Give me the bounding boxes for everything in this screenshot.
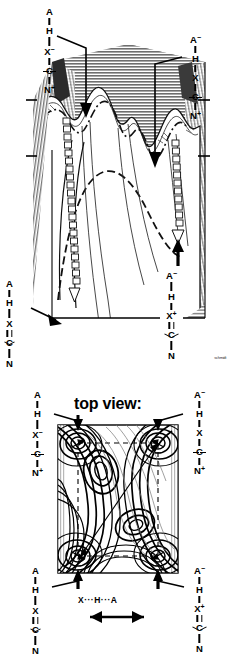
atom-charge: −	[201, 565, 205, 572]
atom-symbol: C	[196, 447, 203, 457]
atom-symbol: X	[196, 428, 202, 438]
atom-symbol: N	[194, 466, 201, 476]
atom-symbol: H	[46, 26, 53, 36]
atom-symbol: N	[190, 111, 197, 121]
species-label-bottom-left-contour: A H X C N	[32, 565, 39, 657]
atom-symbol: A	[194, 390, 201, 400]
leader-line-contour-br	[158, 581, 184, 587]
atom-symbol: C	[32, 625, 39, 635]
atom-symbol: H	[168, 292, 175, 302]
atom-symbol: X	[32, 606, 38, 616]
atom-symbol: A	[46, 7, 53, 17]
atom-symbol: N	[44, 85, 51, 95]
axis-double-arrow	[90, 611, 144, 623]
atom-charge: +	[173, 310, 177, 317]
atom-symbol: N	[32, 646, 39, 656]
atom-symbol: A	[166, 271, 173, 281]
leader-line-contour-bl	[52, 581, 78, 587]
axis-caption: X···H···A	[78, 595, 117, 605]
atom-charge: −	[51, 46, 55, 53]
atom-symbol: H	[192, 54, 199, 64]
atom-charge: −	[197, 34, 201, 41]
species-label-top-left-contour: A H X− C N+	[32, 389, 43, 479]
atom-symbol: X	[192, 73, 198, 83]
species-label-top-left-3d: A H X− C N+	[44, 6, 55, 96]
axis-dots-right: ···	[101, 595, 111, 605]
species-label-top-right-3d: A− H X C N+	[190, 34, 201, 122]
axis-a-symbol: A	[111, 595, 118, 605]
perspective-surface-panel: A H X− C N+ A− H X C N+ A H X C N A− H	[0, 0, 234, 375]
artist-signature: schmidt	[214, 355, 226, 360]
atom-charge: −	[39, 429, 43, 436]
atom-symbol: H	[6, 298, 13, 308]
atom-symbol: A	[190, 35, 197, 45]
atom-symbol: A	[194, 566, 201, 576]
atom-symbol: C	[46, 66, 53, 76]
atom-symbol: A	[6, 279, 13, 289]
species-label-inset-box-3d: A− H X+ C N	[160, 266, 183, 365]
atom-symbol: H	[32, 585, 39, 595]
atom-charge: −	[173, 270, 177, 277]
atom-symbol: H	[196, 585, 203, 595]
atom-charge: +	[201, 603, 205, 610]
atom-symbol: N	[196, 644, 203, 654]
atom-symbol: C	[34, 449, 41, 459]
species-label-top-right-contour: A− H X C N+	[194, 389, 205, 477]
atom-symbol: N	[6, 359, 13, 369]
atom-symbol: A	[32, 566, 39, 576]
species-label-bottom-right-contour: A− H X+ C N	[194, 565, 205, 655]
atom-charge: +	[197, 110, 201, 117]
atom-symbol: C	[6, 338, 13, 348]
species-label-bottom-left-3d: A H X C N	[6, 278, 13, 370]
atom-symbol: H	[34, 409, 41, 419]
atom-charge: −	[201, 389, 205, 396]
atom-symbol: N	[32, 468, 39, 478]
axis-h-symbol: H	[94, 595, 101, 605]
contour-map-panel: top view:	[0, 375, 234, 659]
atom-symbol: C	[192, 92, 199, 102]
atom-symbol: H	[196, 409, 203, 419]
atom-symbol: N	[168, 351, 175, 361]
atom-charge: +	[39, 467, 43, 474]
atom-charge: +	[51, 84, 55, 91]
axis-dots-left: ···	[84, 595, 94, 605]
atom-charge: +	[201, 465, 205, 472]
atom-symbol: C	[196, 623, 203, 633]
atom-symbol: X	[6, 319, 12, 329]
atom-symbol: C	[168, 330, 175, 340]
top-view-heading: top view:	[74, 395, 142, 413]
atom-symbol: A	[34, 390, 41, 400]
